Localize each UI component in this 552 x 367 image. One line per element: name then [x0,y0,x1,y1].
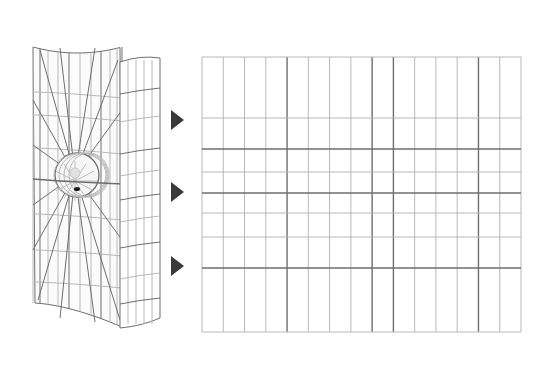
unrolled-flat-grid [0,0,552,367]
projection-diagram [0,0,552,367]
